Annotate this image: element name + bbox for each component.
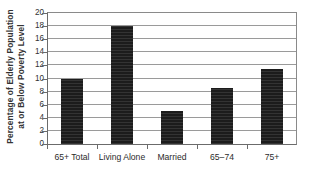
y-axis-tick-mark — [42, 105, 47, 106]
x-axis-tick-mark — [47, 145, 48, 149]
bar — [211, 88, 233, 144]
x-axis-tick-mark — [97, 145, 98, 149]
x-axis-tick-mark — [197, 145, 198, 149]
y-axis-tick-mark — [42, 52, 47, 53]
x-axis-tick-label: 65+ Total — [47, 152, 97, 163]
y-axis-tick-mark — [42, 13, 47, 14]
y-axis-tick-mark — [42, 26, 47, 27]
y-axis-tick-labels: 02468101214161820 — [30, 0, 44, 152]
y-axis-title-line-1: Percentage of Elderly Population — [5, 9, 16, 143]
bar — [111, 26, 133, 144]
x-axis-tick-label: Living Alone — [97, 152, 147, 163]
x-axis-tick-label: 75+ — [247, 152, 297, 163]
y-axis-tick-mark — [42, 79, 47, 80]
bar — [61, 79, 83, 145]
x-axis-tick-mark — [247, 145, 248, 149]
x-axis-tick-label: Married — [147, 152, 197, 163]
x-axis-tick-mark — [147, 145, 148, 149]
x-axis-tick-labels: 65+ TotalLiving AloneMarried65–7475+ — [47, 152, 297, 168]
y-axis-tick-mark — [42, 118, 47, 119]
y-axis-tick-mark — [42, 92, 47, 93]
x-axis-tick-label: 65–74 — [197, 152, 247, 163]
y-axis-tick-mark — [42, 65, 47, 66]
y-axis-tick-mark — [42, 131, 47, 132]
bar-chart: Percentage of Elderly Population at or B… — [0, 0, 309, 180]
y-axis-tick-mark — [42, 39, 47, 40]
y-axis-title: Percentage of Elderly Population at or B… — [0, 0, 30, 152]
bar — [261, 69, 283, 144]
bars-layer — [48, 13, 296, 144]
y-axis-title-line-2: at or Below Poverty Level — [15, 9, 26, 143]
bar — [161, 111, 183, 144]
